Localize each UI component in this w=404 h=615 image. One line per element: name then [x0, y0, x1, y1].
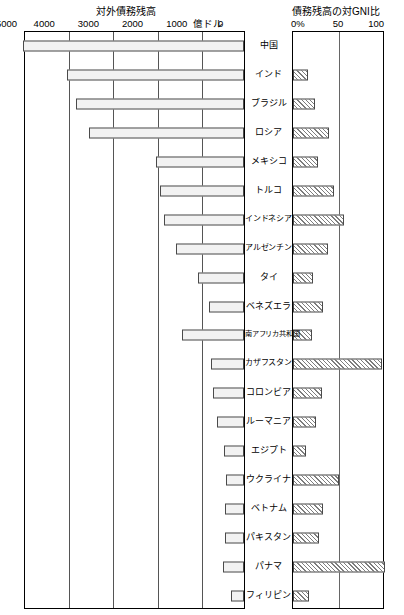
country-label: パナマ [245, 561, 292, 571]
debt-bar [225, 503, 244, 514]
debt-bar [223, 561, 244, 572]
right-bar-row [293, 523, 383, 552]
right-bar-row [293, 32, 383, 61]
right-bar-row [293, 90, 383, 119]
debt-bar [164, 214, 244, 225]
gni-ratio-bar [293, 185, 334, 196]
debt-bar [198, 272, 244, 283]
left-bar-row [25, 379, 244, 408]
country-label: パキスタン [245, 532, 292, 542]
left-axis-tick: 5000 [0, 18, 17, 30]
country-label: ロシア [245, 127, 292, 137]
left-bar-row [25, 263, 244, 292]
gni-ratio-bar [293, 214, 344, 225]
country-label: アルゼンチン [245, 243, 292, 253]
country-label: メキシコ [245, 156, 292, 166]
chart-page: 対外債務残高 債務残高の対GNI比 500040003000200010000億… [0, 0, 404, 615]
debt-bar [67, 70, 244, 81]
debt-bar [213, 388, 244, 399]
country-label: ブラジル [245, 98, 292, 108]
left-plot-area [24, 31, 245, 609]
left-bar-row [25, 205, 244, 234]
country-label: ベネズエラ [245, 301, 292, 311]
right-bar-row [293, 61, 383, 90]
left-bar-row [25, 148, 244, 177]
right-bar-row [293, 408, 383, 437]
debt-bar [231, 590, 244, 601]
country-label: エジプト [245, 445, 292, 455]
country-label: インドネシア [245, 214, 292, 224]
right-bar-row [293, 581, 383, 610]
gni-ratio-bar [293, 417, 316, 428]
gni-ratio-bar [293, 301, 323, 312]
left-bar-row [25, 321, 244, 350]
right-axis-tick: 50 [333, 18, 344, 30]
gni-ratio-bar [293, 272, 313, 283]
debt-bar [89, 128, 244, 139]
left-bar-row [25, 234, 244, 263]
gni-ratio-bar [293, 243, 328, 254]
left-bar-row [25, 90, 244, 119]
debt-bar [226, 474, 244, 485]
country-label: 南アフリカ共和国 [245, 329, 292, 339]
right-bar-row [293, 205, 383, 234]
right-bar-row [293, 177, 383, 206]
country-label: タイ [245, 272, 292, 282]
gni-ratio-bar [293, 561, 385, 572]
right-bar-row [293, 119, 383, 148]
left-bar-row [25, 494, 244, 523]
gni-ratio-bar [293, 70, 308, 81]
debt-bar [182, 330, 244, 341]
gni-ratio-bar [293, 99, 315, 110]
gni-ratio-bar [293, 128, 329, 139]
right-bar-row [293, 437, 383, 466]
left-chart-title: 対外債務残高 [96, 6, 156, 17]
right-bar-row [293, 494, 383, 523]
right-chart-title: 債務残高の対GNI比 [292, 6, 380, 17]
right-bar-row [293, 234, 383, 263]
left-axis-tick: 2000 [122, 18, 143, 30]
left-bar-row [25, 523, 244, 552]
left-axis-tick: 1000 [166, 18, 187, 30]
debt-bar [224, 446, 244, 457]
debt-bar [156, 157, 244, 168]
debt-bar [209, 301, 244, 312]
gni-ratio-bar [293, 503, 323, 514]
left-bar-row [25, 581, 244, 610]
right-bar-row [293, 466, 383, 495]
country-label: トルコ [245, 185, 292, 195]
debt-bar [211, 359, 244, 370]
right-bar-row [293, 552, 383, 581]
left-axis-ticks: 500040003000200010000億ドル [0, 18, 250, 30]
right-axis-tick: 0% [291, 18, 305, 30]
country-label: 中国 [245, 40, 292, 50]
right-bar-row [293, 148, 383, 177]
left-bar-row [25, 61, 244, 90]
gni-ratio-bar [293, 532, 319, 543]
gni-ratio-bar [293, 157, 318, 168]
debt-bar [225, 532, 244, 543]
left-bar-row [25, 292, 244, 321]
country-label: ベトナム [245, 503, 292, 513]
gni-ratio-bar [293, 388, 322, 399]
debt-bar [160, 185, 244, 196]
debt-bar [23, 41, 244, 52]
right-bar-row [293, 321, 383, 350]
debt-bar [176, 243, 245, 254]
left-bar-row [25, 32, 244, 61]
left-bar-row [25, 552, 244, 581]
left-axis-tick: 3000 [78, 18, 99, 30]
left-bar-row [25, 466, 244, 495]
gni-ratio-bar [293, 590, 309, 601]
left-axis-tick: 4000 [34, 18, 55, 30]
gni-ratio-bar [293, 446, 306, 457]
left-bar-row [25, 437, 244, 466]
country-label: ルーマニア [245, 416, 292, 426]
country-label: インド [245, 69, 292, 79]
country-label: コロンビア [245, 387, 292, 397]
gni-ratio-bar [293, 474, 339, 485]
left-bar-row [25, 350, 244, 379]
right-axis-ticks: 0%50100 [286, 18, 404, 30]
country-label: フィリピン [245, 590, 292, 600]
country-label-column: 中国インドブラジルロシアメキシコトルコインドネシアアルゼンチンタイベネズエラ南ア… [245, 31, 292, 609]
